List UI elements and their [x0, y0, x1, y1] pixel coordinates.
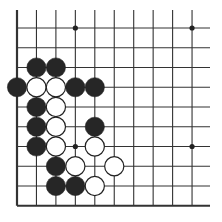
- white-stone: [27, 78, 46, 97]
- white-stone: [46, 117, 65, 136]
- white-stone: [85, 176, 104, 195]
- white-stone: [66, 157, 85, 176]
- black-stone: [85, 117, 104, 136]
- star-point: [189, 25, 194, 30]
- white-stone: [46, 97, 65, 116]
- black-stone: [7, 78, 26, 97]
- white-stone: [46, 137, 65, 156]
- black-stone: [66, 176, 85, 195]
- star-point: [73, 25, 78, 30]
- black-stone: [46, 157, 65, 176]
- black-stone: [27, 137, 46, 156]
- star-point: [73, 144, 78, 149]
- black-stone: [27, 97, 46, 116]
- black-stone: [46, 58, 65, 77]
- black-stone: [85, 78, 104, 97]
- black-stone: [66, 78, 85, 97]
- black-stone: [46, 176, 65, 195]
- black-stone: [27, 58, 46, 77]
- white-stone: [85, 137, 104, 156]
- white-stone: [105, 157, 124, 176]
- star-point: [189, 144, 194, 149]
- white-stone: [46, 78, 65, 97]
- go-board[interactable]: [0, 0, 222, 222]
- black-stone: [27, 117, 46, 136]
